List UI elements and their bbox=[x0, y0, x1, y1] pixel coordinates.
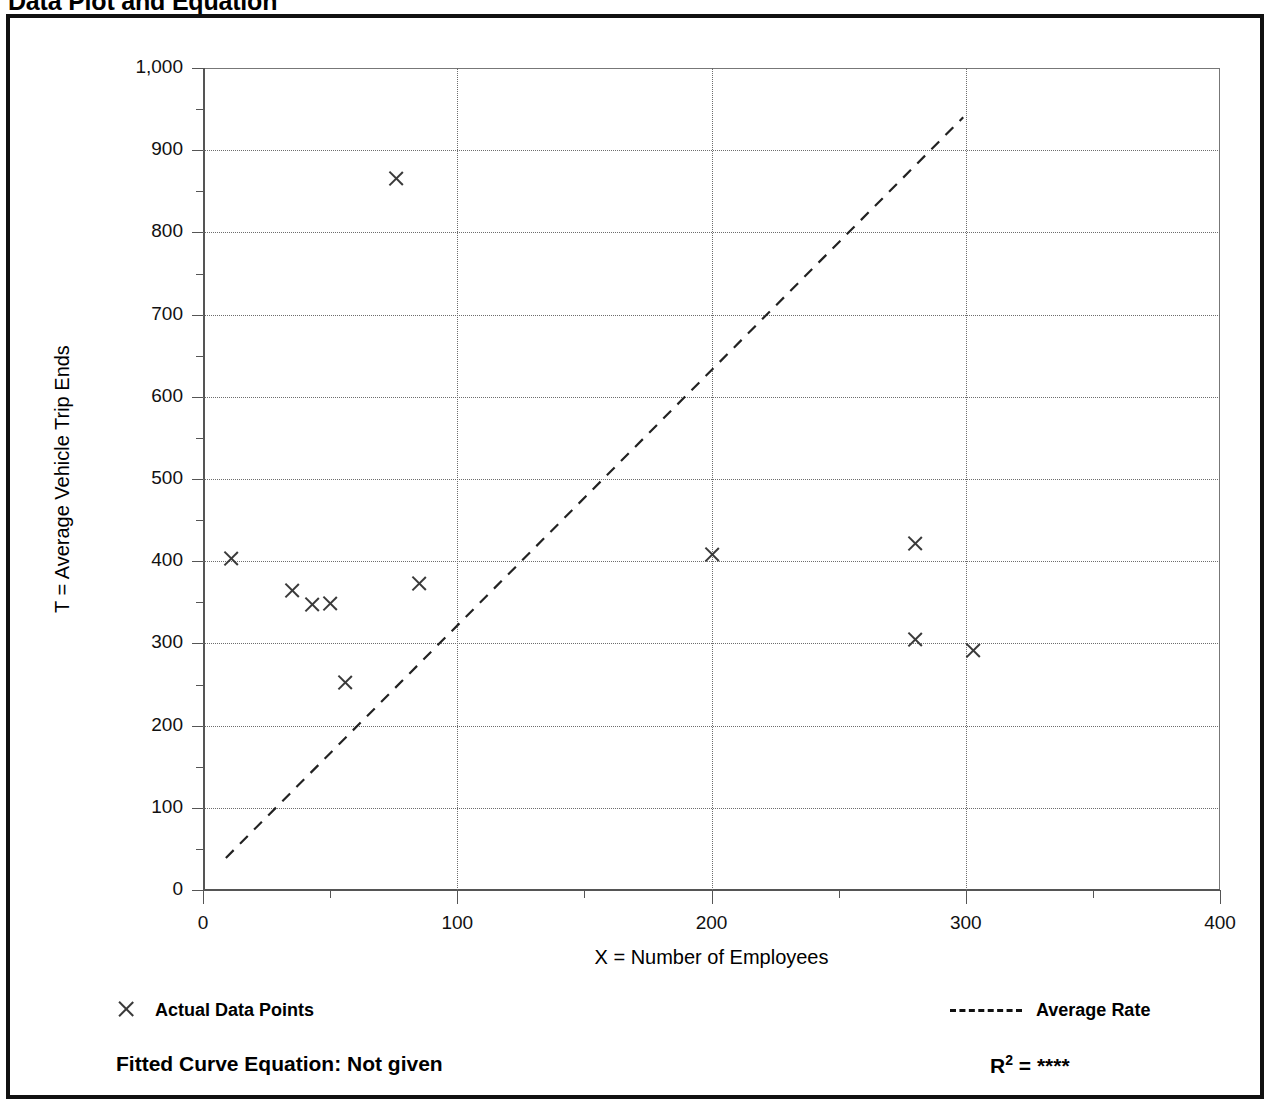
y-tick-minor bbox=[196, 438, 203, 439]
y-tick-minor bbox=[196, 520, 203, 521]
y-tick-label: 300 bbox=[0, 631, 183, 653]
y-tick-major bbox=[192, 479, 203, 480]
y-tick-label: 600 bbox=[0, 385, 183, 407]
y-tick-label: 0 bbox=[0, 878, 183, 900]
y-tick-minor bbox=[196, 191, 203, 192]
y-tick-label: 100 bbox=[0, 796, 183, 818]
x-axis-title: X = Number of Employees bbox=[203, 946, 1220, 969]
y-tick-major bbox=[192, 150, 203, 151]
y-tick-minor bbox=[196, 109, 203, 110]
scatter-point bbox=[303, 595, 322, 614]
scatter-point bbox=[282, 581, 301, 600]
y-tick-major bbox=[192, 68, 203, 69]
y-tick-major bbox=[192, 890, 203, 891]
y-tick-major bbox=[192, 808, 203, 809]
x-tick-major bbox=[457, 890, 458, 904]
scatter-point bbox=[321, 594, 340, 613]
chart-legend: Actual Data Points Average Rate bbox=[0, 995, 1276, 1025]
scatter-point bbox=[387, 169, 406, 188]
x-marker-icon bbox=[116, 999, 136, 1019]
legend-item-actual-data-points: Actual Data Points bbox=[155, 1000, 314, 1021]
x-tick-minor bbox=[330, 890, 331, 898]
x-tick-major bbox=[712, 890, 713, 904]
y-tick-label: 700 bbox=[0, 303, 183, 325]
y-tick-label: 800 bbox=[0, 220, 183, 242]
scatter-point bbox=[336, 673, 355, 692]
y-tick-major bbox=[192, 232, 203, 233]
scatter-point bbox=[905, 630, 924, 649]
x-tick-major bbox=[1220, 890, 1221, 904]
average-rate-line bbox=[203, 68, 1220, 890]
chart-footer: Fitted Curve Equation: Not given R2 = **… bbox=[0, 1052, 1276, 1086]
x-tick-label: 100 bbox=[441, 912, 473, 934]
plot-area bbox=[203, 68, 1220, 890]
scatter-point bbox=[905, 534, 924, 553]
y-tick-minor bbox=[196, 602, 203, 603]
scatter-point bbox=[702, 545, 721, 564]
y-tick-label: 900 bbox=[0, 138, 183, 160]
scatter-point bbox=[410, 574, 429, 593]
average-rate-line-segment bbox=[226, 117, 963, 858]
x-tick-label: 200 bbox=[696, 912, 728, 934]
y-tick-label: 400 bbox=[0, 549, 183, 571]
x-tick-minor bbox=[839, 890, 840, 898]
y-tick-minor bbox=[196, 356, 203, 357]
y-tick-minor bbox=[196, 849, 203, 850]
y-tick-label: 1,000 bbox=[0, 56, 183, 78]
x-tick-label: 0 bbox=[198, 912, 209, 934]
x-tick-label: 400 bbox=[1204, 912, 1236, 934]
y-tick-major bbox=[192, 561, 203, 562]
y-tick-major bbox=[192, 643, 203, 644]
x-tick-minor bbox=[1093, 890, 1094, 898]
r-squared-exponent: 2 bbox=[1005, 1052, 1013, 1068]
r-squared-value: R2 = **** bbox=[990, 1052, 1070, 1078]
r-squared-stars: **** bbox=[1037, 1054, 1070, 1077]
x-tick-major bbox=[966, 890, 967, 904]
y-tick-label: 500 bbox=[0, 467, 183, 489]
x-tick-minor bbox=[584, 890, 585, 898]
x-tick-label: 300 bbox=[950, 912, 982, 934]
r-squared-equals: = bbox=[1013, 1054, 1037, 1077]
y-tick-label: 200 bbox=[0, 714, 183, 736]
r-squared-letter: R bbox=[990, 1054, 1005, 1077]
scatter-point bbox=[964, 641, 983, 660]
y-tick-major bbox=[192, 397, 203, 398]
y-tick-major bbox=[192, 315, 203, 316]
y-tick-minor bbox=[196, 685, 203, 686]
dashed-line-icon bbox=[950, 1009, 1022, 1012]
scatter-point bbox=[221, 549, 240, 568]
y-tick-major bbox=[192, 726, 203, 727]
x-tick-major bbox=[203, 890, 204, 904]
y-tick-minor bbox=[196, 274, 203, 275]
legend-item-average-rate: Average Rate bbox=[1036, 1000, 1150, 1021]
y-tick-minor bbox=[196, 767, 203, 768]
fitted-curve-equation: Fitted Curve Equation: Not given bbox=[116, 1052, 443, 1076]
